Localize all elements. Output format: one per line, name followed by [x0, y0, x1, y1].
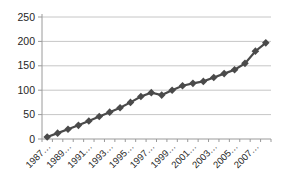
data-point-marker — [179, 82, 187, 90]
y-tick-label: 200 — [17, 35, 35, 47]
y-tick-label: 150 — [17, 59, 35, 71]
data-point-marker — [43, 133, 51, 141]
data-point-marker — [210, 74, 218, 82]
line-chart: 0501001502002501987…1989…1991…1993…1995…… — [0, 0, 282, 183]
chart-canvas: 0501001502002501987…1989…1991…1993…1995…… — [0, 0, 282, 183]
data-point-marker — [168, 86, 176, 94]
y-tick-label: 0 — [29, 133, 35, 145]
data-point-marker — [116, 104, 124, 112]
y-tick-label: 250 — [17, 11, 35, 23]
data-point-marker — [220, 70, 228, 78]
data-point-marker — [75, 122, 83, 130]
data-point-marker — [158, 91, 166, 99]
data-point-marker — [64, 125, 72, 133]
data-point-marker — [189, 80, 197, 88]
data-point-marker — [95, 113, 103, 121]
y-tick-label: 50 — [23, 108, 35, 120]
data-point-marker — [54, 129, 62, 137]
y-tick-label: 100 — [17, 84, 35, 96]
data-point-marker — [200, 78, 208, 86]
data-point-marker — [85, 117, 93, 125]
